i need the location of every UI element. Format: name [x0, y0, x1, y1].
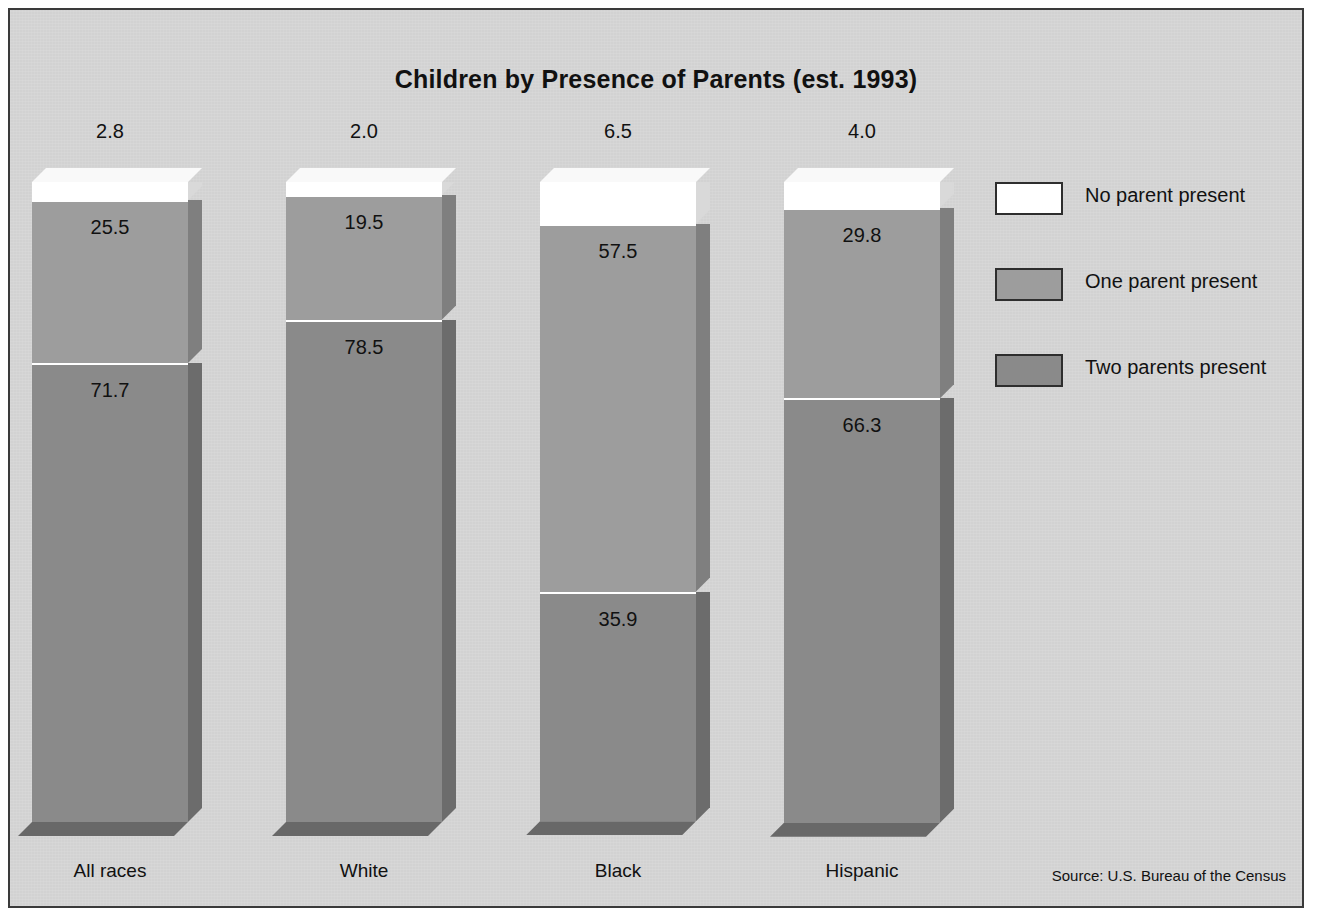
legend-swatch [995, 354, 1063, 387]
bar-segment-side-face [940, 398, 954, 822]
bar-segment-side-face [188, 363, 202, 822]
bar-segment-face [286, 182, 442, 195]
bar-segment-value-label: 29.8 [784, 224, 940, 247]
source-note: Source: U.S. Bureau of the Census [1052, 867, 1286, 884]
bar-segment-bottom-face [18, 822, 188, 836]
bar-segment[interactable] [286, 182, 442, 195]
bar-segment-bottom-face [272, 822, 442, 836]
bar-segment-top-face [286, 168, 456, 182]
legend-item[interactable]: One parent present [995, 268, 1295, 354]
bar-segment[interactable] [32, 182, 188, 200]
bar-segment-value-label: 19.5 [286, 211, 442, 234]
bar-stack: 19.578.5 [286, 182, 442, 822]
bar-stack: 57.535.9 [540, 182, 696, 822]
bar-segment-face [540, 182, 696, 224]
bar-segment[interactable]: 71.7 [32, 363, 188, 822]
legend-item[interactable]: No parent present [995, 182, 1295, 268]
bar-segment-side-face [188, 200, 202, 363]
bar-segment[interactable]: 66.3 [784, 398, 940, 822]
bar-group: 19.578.52.0White [286, 8, 456, 906]
legend-swatch [995, 268, 1063, 301]
legend-label: Two parents present [1085, 356, 1266, 379]
bar-segment[interactable]: 57.5 [540, 224, 696, 592]
bar-segment[interactable]: 25.5 [32, 200, 188, 363]
bar-segment-value-label: 25.5 [32, 216, 188, 239]
bar-segment[interactable]: 78.5 [286, 320, 442, 822]
bar-group: 25.571.72.8All races [32, 8, 202, 906]
bar-segment-bottom-face [526, 821, 696, 835]
bar-segment-side-face [696, 592, 710, 822]
category-label: White [286, 860, 442, 882]
bar-segment-value-label: 78.5 [286, 336, 442, 359]
bar-stack: 29.866.3 [784, 182, 940, 822]
bar-segment-face [784, 398, 940, 822]
bar-segment-side-face [442, 320, 456, 822]
legend-label: No parent present [1085, 184, 1245, 207]
category-label: Hispanic [784, 860, 940, 882]
bar-segment[interactable] [540, 182, 696, 224]
bar-segment-value-label: 57.5 [540, 240, 696, 263]
bar-top-value-label: 4.0 [784, 120, 940, 143]
bar-segment-top-face [32, 168, 202, 182]
bar-group: 57.535.96.5Black [540, 8, 710, 906]
bar-segment-value-label: 71.7 [32, 379, 188, 402]
bar-group: 29.866.34.0Hispanic [784, 8, 954, 906]
bar-segment-top-face [540, 168, 710, 182]
bar-segment-face [540, 224, 696, 592]
bar-segment-face [32, 182, 188, 200]
chart-legend: No parent presentOne parent presentTwo p… [995, 182, 1295, 440]
legend-item[interactable]: Two parents present [995, 354, 1295, 440]
bar-segment[interactable]: 35.9 [540, 592, 696, 822]
bar-stack: 25.571.7 [32, 182, 188, 822]
bar-segment-face [32, 363, 188, 822]
bar-segment-side-face [696, 182, 710, 224]
bar-segment[interactable]: 29.8 [784, 208, 940, 399]
legend-swatch [995, 182, 1063, 215]
bar-segment-face [784, 182, 940, 208]
category-label: Black [540, 860, 696, 882]
bar-segment-side-face [442, 182, 456, 195]
bar-segment-value-label: 35.9 [540, 608, 696, 631]
bar-segment-face [286, 320, 442, 822]
bar-segment-side-face [940, 182, 954, 208]
bar-segment-side-face [696, 224, 710, 592]
bar-segment-bottom-face [770, 823, 940, 837]
bar-top-value-label: 6.5 [540, 120, 696, 143]
bar-segment-top-face [784, 168, 954, 182]
bar-segment-value-label: 66.3 [784, 414, 940, 437]
bar-top-value-label: 2.8 [32, 120, 188, 143]
bar-top-value-label: 2.0 [286, 120, 442, 143]
bar-segment-side-face [188, 182, 202, 200]
chart-frame: Children by Presence of Parents (est. 19… [8, 8, 1304, 908]
category-label: All races [32, 860, 188, 882]
bar-segment[interactable]: 19.5 [286, 195, 442, 320]
bar-segment-side-face [442, 195, 456, 320]
legend-label: One parent present [1085, 270, 1257, 293]
bar-segment-side-face [940, 208, 954, 399]
bar-segment[interactable] [784, 182, 940, 208]
